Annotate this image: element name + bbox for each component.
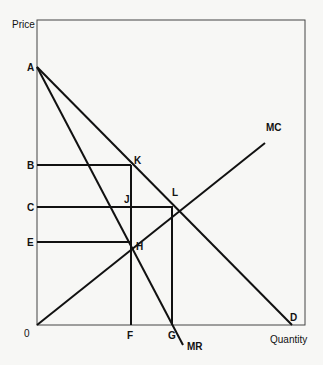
label-mr: MR bbox=[187, 341, 203, 352]
label-k: K bbox=[134, 155, 142, 166]
label-e: E bbox=[27, 237, 34, 248]
label-a: A bbox=[27, 62, 34, 73]
label-d: D bbox=[290, 312, 297, 323]
label-mc: MC bbox=[266, 122, 282, 133]
marginal-cost-curve bbox=[37, 143, 265, 325]
y-axis-label: Price bbox=[12, 19, 35, 30]
label-g: G bbox=[168, 330, 176, 341]
origin-label: 0 bbox=[24, 328, 30, 339]
label-c: C bbox=[27, 202, 34, 213]
x-axis-label: Quantity bbox=[270, 334, 307, 345]
label-l: L bbox=[172, 187, 178, 198]
diagram-canvas: Price Quantity 0 A B C E F G K L J H MC … bbox=[0, 0, 323, 365]
label-j: J bbox=[124, 194, 130, 205]
label-h: H bbox=[136, 241, 143, 252]
label-b: B bbox=[27, 160, 34, 171]
label-f: F bbox=[127, 330, 133, 341]
demand-curve bbox=[37, 67, 292, 325]
